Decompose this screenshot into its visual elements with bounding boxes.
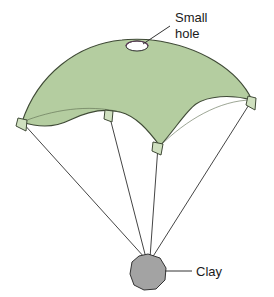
clay-label: Clay (196, 264, 223, 279)
small-hole-label-line2: hole (175, 26, 200, 41)
parachute-diagram: Small hole Clay (0, 0, 274, 297)
diagram-canvas: Small hole Clay (0, 0, 274, 297)
clay-shape (130, 254, 166, 290)
clay-weight-group (130, 254, 166, 290)
small-hole-label-line1: Small (175, 10, 208, 25)
